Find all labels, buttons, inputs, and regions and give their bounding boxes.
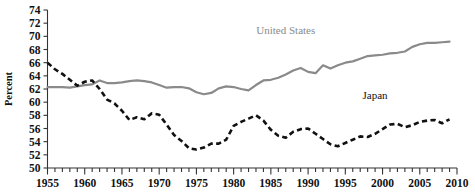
line-chart: 5052545658606264666870727419551960196519… [0,0,475,193]
y-axis-title-text: Percent [3,71,14,106]
y-axis-tick-label: 52 [29,149,41,161]
y-axis-tick-label: 68 [29,44,41,56]
series-label-japan: Japan [363,89,389,101]
x-axis-tick-label: 1965 [110,177,133,189]
chart-series [48,42,450,150]
x-axis-tick-label: 1985 [259,177,282,189]
y-axis-tick-label: 72 [29,17,41,29]
x-axis-tick-label: 1975 [185,177,208,189]
x-axis-tick-label: 1990 [297,177,320,189]
y-axis-tick-label: 70 [29,30,41,42]
x-axis-tick-label: 1970 [148,177,171,189]
y-axis-tick-label: 64 [29,70,41,82]
series-line-japan [48,63,450,150]
x-axis-tick-label: 1955 [36,177,59,189]
x-axis-tick-label: 2000 [371,177,394,189]
x-axis-tick-label: 1995 [334,177,357,189]
chart-tick-labels: 5052545658606264666870727419551960196519… [29,4,469,189]
y-axis-tick-label: 66 [29,57,41,69]
x-axis-tick-label: 2005 [408,177,431,189]
x-axis-tick-label: 2010 [446,177,469,189]
chart-series-annotations: United StatesJapan [256,24,388,101]
y-axis-tick-label: 54 [29,136,41,148]
series-label-united-states: United States [256,24,315,36]
y-axis-tick-label: 60 [29,96,41,108]
y-axis-tick-label: 62 [29,83,41,95]
chart-figure: 5052545658606264666870727419551960196519… [0,0,475,193]
y-axis-tick-label: 58 [29,109,41,121]
y-axis-tick-label: 50 [29,162,41,174]
y-axis-tick-label: 56 [29,123,41,135]
chart-axes [44,10,458,175]
y-axis-title: Percent [3,71,14,106]
series-line-united-states [48,42,450,95]
y-axis-tick-label: 74 [29,4,41,16]
x-axis-tick-label: 1960 [73,177,96,189]
x-axis-tick-label: 1980 [222,177,245,189]
